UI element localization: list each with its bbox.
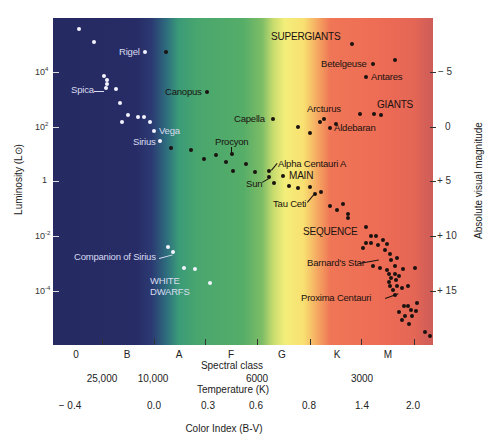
leader-line — [159, 254, 173, 259]
color-index-label: 0.8 — [302, 400, 316, 411]
temperature-title: Temperature (K) — [197, 384, 269, 395]
label-dwarfs: DWARFS — [150, 286, 190, 297]
temperature-label: 25,000 — [87, 373, 118, 384]
y-right-tick-label: + 10 — [437, 230, 457, 241]
tick — [361, 339, 362, 345]
star-dot — [376, 243, 380, 247]
spectral-class-title: Spectral class — [201, 360, 263, 371]
star-dot-companion-sirius — [166, 245, 170, 249]
label-procyon: Procyon — [215, 136, 248, 147]
temperature-label: 3000 — [351, 373, 373, 384]
star-dot — [400, 286, 404, 290]
label-capella: Capella — [234, 113, 265, 124]
label-vega: Vega — [159, 125, 180, 136]
color-index-label: − 0.4 — [59, 400, 82, 411]
star-dot — [164, 50, 168, 54]
star-dot — [319, 190, 323, 194]
star-dot — [381, 238, 385, 242]
star-dot-capella — [271, 117, 275, 121]
y-right-tick-label: 0 — [445, 121, 451, 132]
star-dot — [193, 267, 197, 271]
star-dot — [189, 148, 193, 152]
leader-line — [307, 194, 314, 202]
leader-line — [94, 91, 104, 92]
tick — [414, 339, 415, 345]
star-dot — [296, 186, 300, 190]
y-tick-label: 10-2 — [35, 230, 50, 241]
star-dot — [118, 101, 122, 105]
star-dot — [328, 204, 332, 208]
star-dot — [308, 131, 312, 135]
star-dot-arcturus — [318, 120, 322, 124]
y-tick-label: 10-4 — [35, 285, 50, 296]
star-dot — [410, 314, 414, 318]
tick — [310, 339, 311, 345]
label-alpha-centauri-a: Alpha Centauri A — [278, 158, 346, 169]
star-dot — [369, 234, 373, 238]
spectral-class-label: M — [384, 349, 392, 360]
star-dot — [114, 87, 118, 91]
label-barnards-star: Barnard's Star — [307, 257, 365, 268]
y-axis-right-title: Absolute visual magnitude — [473, 111, 484, 251]
label-sirius: Sirius — [133, 136, 156, 147]
star-dot — [413, 266, 417, 270]
label-tau-ceti: Tau Ceti — [273, 198, 306, 209]
star-dot — [253, 170, 257, 174]
label-betelgeuse: Betelgeuse — [321, 58, 367, 69]
star-dot — [182, 266, 186, 270]
star-dot — [415, 301, 419, 305]
label-companion-of-sirius: Companion of Sirius — [74, 251, 156, 262]
star-dot — [346, 216, 350, 220]
label-sequence: SEQUENCE — [303, 226, 358, 237]
star-dot — [391, 288, 395, 292]
star-dot — [406, 284, 410, 288]
tick — [430, 127, 436, 128]
y-right-tick-label: + 5 — [437, 175, 451, 186]
color-index-label: 0.3 — [201, 400, 215, 411]
label-arcturus: Arcturus — [307, 103, 341, 114]
star-dot — [148, 120, 152, 124]
star-dot — [423, 330, 427, 334]
hr-diagram-plot-area: Rigel Spica Vega Sirius Canopus Procyon … — [53, 18, 433, 345]
star-dot — [231, 169, 235, 173]
color-index-label: 2.0 — [406, 400, 420, 411]
leader-line — [271, 163, 278, 171]
star-dot — [335, 208, 339, 212]
tick — [154, 339, 155, 345]
spectral-class-label: A — [176, 349, 183, 360]
spectral-class-label: G — [278, 349, 286, 360]
label-antares: Antares — [371, 71, 402, 82]
star-dot — [369, 241, 373, 245]
y-axis-left-title: Luminosity (L⊙) — [13, 140, 24, 220]
star-dot — [409, 308, 413, 312]
star-dot — [287, 184, 291, 188]
color-index-label: 0.6 — [249, 400, 263, 411]
star-dot — [350, 42, 354, 46]
y-right-tick-label: + 15 — [437, 285, 457, 296]
spectral-class-label: K — [334, 349, 341, 360]
star-dot — [403, 314, 407, 318]
tick — [430, 181, 436, 182]
tick — [257, 339, 258, 345]
leader-line — [231, 147, 232, 153]
star-dot — [388, 252, 392, 256]
star-dot — [414, 309, 418, 313]
star-dot — [394, 278, 398, 282]
star-dot-antares — [364, 75, 368, 79]
star-dot-canopus — [205, 90, 209, 94]
star-dot — [364, 225, 368, 229]
star-dot-sirius — [158, 139, 162, 143]
star-dot — [358, 112, 362, 116]
star-dot — [395, 284, 399, 288]
tick — [53, 181, 59, 182]
star-dot — [401, 267, 405, 271]
star-dot — [142, 115, 146, 119]
star-dot — [126, 113, 130, 117]
star-dot — [372, 112, 376, 116]
y-tick-label: 102 — [35, 121, 48, 132]
tick — [102, 339, 103, 345]
star-dot — [393, 264, 397, 268]
label-rigel: Rigel — [119, 46, 140, 57]
star-dot — [244, 162, 248, 166]
temperature-label: 6000 — [246, 373, 268, 384]
